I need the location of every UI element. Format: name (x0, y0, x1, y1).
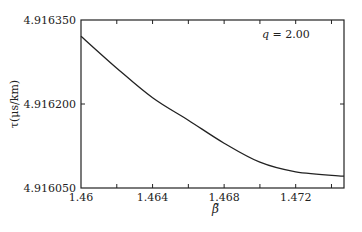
annotation-variable: q (262, 28, 269, 41)
tau-vs-beta-curve (81, 36, 344, 176)
parameter-annotation: q = 2.00 (262, 28, 310, 41)
plot-frame (81, 20, 344, 188)
y-tick-label: 4.916350 (24, 14, 77, 27)
annotation-equals: = (273, 28, 286, 41)
x-tick-label: 1.464 (137, 191, 169, 204)
x-axis-tick-labels: 1.461.4641.4681.472 (69, 191, 312, 204)
annotation-value: 2.00 (285, 28, 310, 41)
x-axis-label: β̃ (212, 202, 219, 216)
y-tick-label: 4.916200 (24, 98, 77, 111)
y-axis-tick-labels: 4.9160504.9162004.916350 (24, 14, 77, 195)
y-tick-label: 4.916050 (24, 182, 77, 195)
x-axis-ticks (117, 20, 332, 188)
y-axis-label: τ(μs/km) (8, 80, 21, 128)
x-tick-label: 1.472 (280, 191, 312, 204)
